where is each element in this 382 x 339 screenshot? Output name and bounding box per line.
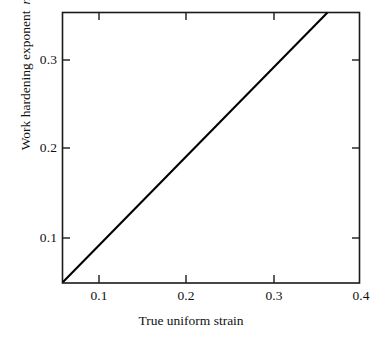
x-axis-title: True uniform strain	[0, 313, 382, 329]
x-tick-label-2: 0.2	[177, 289, 194, 303]
y-tick-label-1: 0.1	[26, 231, 57, 245]
y-axis-ticks	[62, 60, 360, 238]
x-tick-label-1: 0.1	[90, 289, 107, 303]
plot-frame	[63, 13, 360, 284]
x-tick-label-4: 0.4	[352, 289, 369, 303]
x-axis-ticks	[99, 12, 274, 283]
x-tick-label-3: 0.3	[265, 289, 282, 303]
y-axis-title-symbol: n	[18, 0, 33, 10]
y-axis-title-text: Work hardening exponent	[18, 10, 33, 150]
y-axis-title: Work hardening exponentn	[18, 0, 34, 184]
data-series-line	[63, 13, 328, 283]
chart-figure: 0.1 0.2 0.3 0.4 0.3 0.2 0.1 True uniform…	[0, 0, 382, 339]
